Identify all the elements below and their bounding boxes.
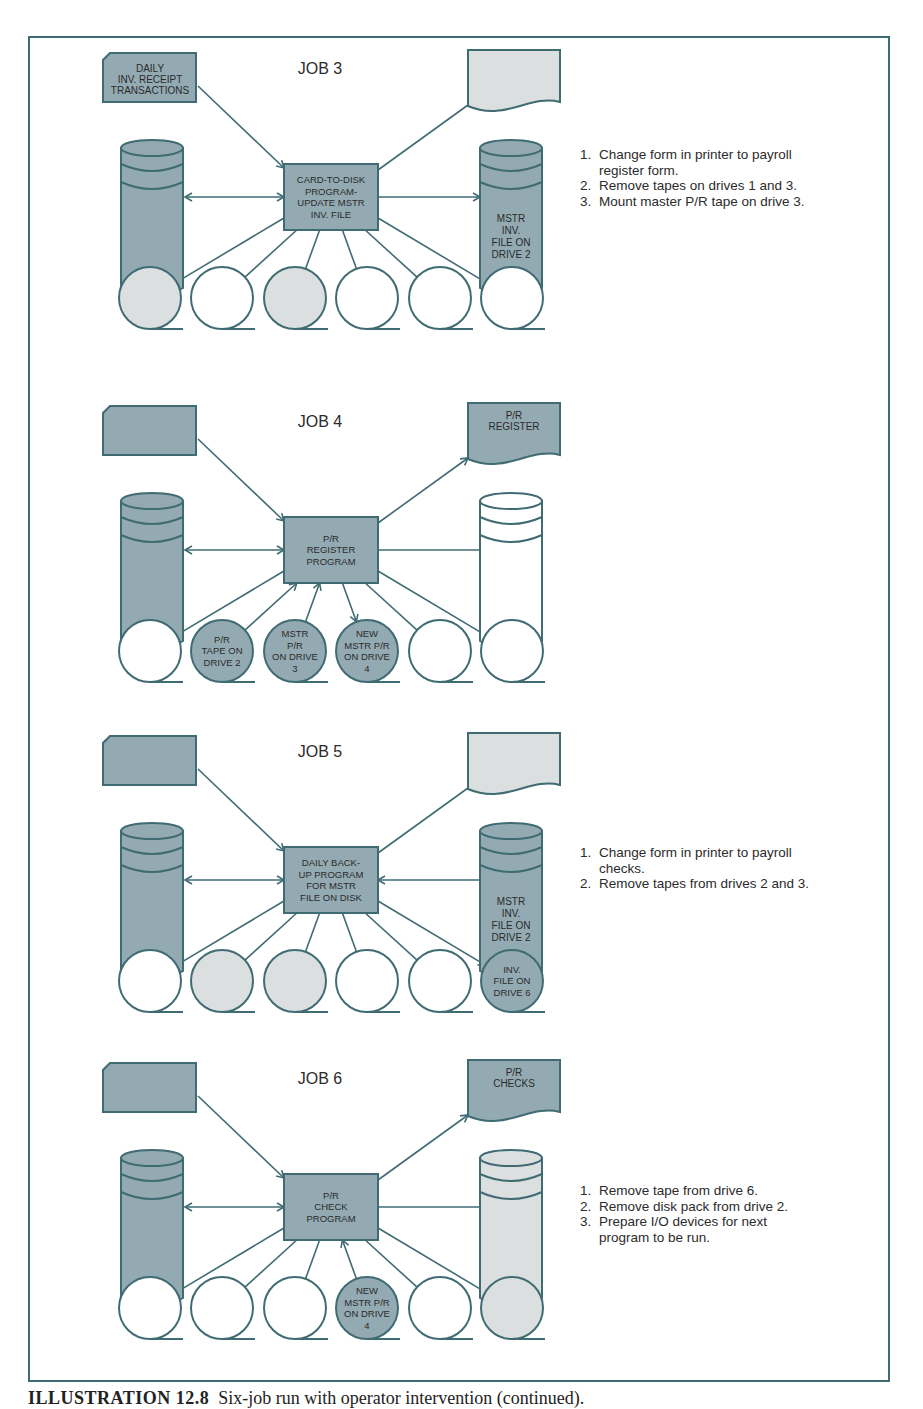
tape-drive-icon-2 <box>191 950 255 1012</box>
shape-label: FILE ON <box>492 237 531 248</box>
job-title: JOB 3 <box>298 60 343 77</box>
card-input-arrow <box>198 769 284 851</box>
shape-label: INV. RECEIPT <box>118 74 183 85</box>
tape-drive-icon-5 <box>409 1277 473 1339</box>
shape-label: REGISTER <box>488 421 539 432</box>
shape-label: MSTR <box>282 628 309 639</box>
note-item: 1.Remove tape from drive 6. <box>580 1183 820 1199</box>
job-title: JOB 5 <box>298 743 343 760</box>
shape-label: 4 <box>364 663 369 674</box>
tape-drive-icon-6 <box>481 267 545 329</box>
tape-connector <box>306 1240 320 1279</box>
tape-drive-icon-1 <box>119 267 183 329</box>
card-input-arrow <box>198 1096 284 1178</box>
tape-drive-icon-2: P/RTAPE ONDRIVE 2 <box>191 620 255 682</box>
caption-label: ILLUSTRATION 12.8 <box>28 1388 209 1408</box>
punched-card-input-icon <box>103 1063 196 1112</box>
job-title: JOB 6 <box>298 1070 343 1087</box>
tape-drive-icon-5 <box>409 950 473 1012</box>
shape-label: P/R <box>506 1067 523 1078</box>
note-item: 1.Change form in printer to payroll regi… <box>580 147 810 178</box>
shape-label: 4 <box>364 1320 369 1331</box>
shape-label: FILE ON DISK <box>300 892 362 903</box>
shape-label: P/R <box>323 533 339 544</box>
shape-label: P/R <box>287 640 303 651</box>
note-item: 2.Remove tapes on drives 1 and 3. <box>580 178 810 194</box>
printer-output-arrow <box>378 105 468 170</box>
note-text: Prepare I/O devices for next program to … <box>599 1214 767 1245</box>
tape-drive-icon-6 <box>481 1277 545 1339</box>
shape-label: TAPE ON <box>202 645 243 656</box>
shape-label: DAILY <box>136 63 164 74</box>
tape-connector <box>306 230 320 269</box>
tape-drive-icon-5 <box>409 267 473 329</box>
tape-drive-icon-3 <box>264 950 328 1012</box>
shape-label: MSTR P/R <box>344 640 390 651</box>
tape-drive-icon-3 <box>264 1277 328 1339</box>
shape-label: P/R <box>214 634 230 645</box>
shape-label: ON DRIVE <box>344 1308 390 1319</box>
shape-label: DAILY BACK- <box>302 857 360 868</box>
tape-drive-icon-1 <box>119 620 183 682</box>
tape-drive-icon-2 <box>191 1277 255 1339</box>
shape-label: P/R <box>323 1190 339 1201</box>
card-input-arrow <box>198 439 284 521</box>
printer-document-icon <box>468 733 560 794</box>
shape-label: UPDATE MSTR <box>297 197 365 208</box>
note-item: 3.Mount master P/R tape on drive 3. <box>580 194 810 210</box>
punched-card-input-icon <box>103 406 196 455</box>
shape-label: PROGRAM <box>306 1213 355 1224</box>
shape-label: DRIVE 6 <box>494 987 531 998</box>
punched-card-input-icon <box>103 736 196 785</box>
note-text: Remove disk pack from drive 2. <box>599 1199 788 1214</box>
tape-drive-icon-3: MSTRP/RON DRIVE3 <box>264 620 328 682</box>
note-text: Remove tapes from drives 2 and 3. <box>599 876 809 891</box>
figure-caption: ILLUSTRATION 12.8 Six-job run with opera… <box>28 1388 584 1409</box>
tape-connector <box>342 230 356 269</box>
printer-output-arrow <box>378 788 468 853</box>
job-3-diagram: JOB 3DAILYINV. RECEIPTTRANSACTIONSMSTRIN… <box>103 50 560 329</box>
shape-label: P/R <box>506 410 523 421</box>
shape-label: UP PROGRAM <box>299 869 364 880</box>
shape-label: FILE ON <box>494 975 531 986</box>
printer-output-arrow <box>378 1115 468 1180</box>
note-item: 1.Change form in printer to payroll chec… <box>580 845 810 876</box>
job-title: JOB 4 <box>298 413 343 430</box>
tape-connector <box>342 1240 356 1279</box>
job-6-diagram: JOB 6P/RCHECKSP/RCHECKPROGRAMNEWMSTR P/R… <box>103 1060 560 1339</box>
shape-label: TRANSACTIONS <box>111 85 190 96</box>
note-item: 3.Prepare I/O devices for next program t… <box>580 1214 820 1245</box>
tape-drive-icon-1 <box>119 1277 183 1339</box>
job-5-operator-notes: 1.Change form in printer to payroll chec… <box>580 845 810 892</box>
shape-label: INV. <box>502 908 521 919</box>
tape-drive-icon-4: NEWMSTR P/RON DRIVE4 <box>336 1277 400 1339</box>
shape-label: PROGRAM <box>306 556 355 567</box>
shape-label: INV. <box>502 225 521 236</box>
shape-label: NEW <box>356 628 378 639</box>
job-5-diagram: JOB 5MSTRINV.FILE ONDRIVE 2DAILY BACK-UP… <box>103 733 560 1012</box>
tape-connector <box>306 913 320 952</box>
shape-label: PROGRAM- <box>305 186 357 197</box>
job-3-operator-notes: 1.Change form in printer to payroll regi… <box>580 147 810 209</box>
note-text: Remove tape from drive 6. <box>599 1183 758 1198</box>
tape-drive-icon-4 <box>336 950 400 1012</box>
shape-label: MSTR <box>497 213 525 224</box>
shape-label: FOR MSTR <box>306 880 356 891</box>
job-6-operator-notes: 1.Remove tape from drive 6. 2.Remove dis… <box>580 1183 820 1245</box>
tape-drive-icon-2 <box>191 267 255 329</box>
shape-label: ON DRIVE <box>272 651 318 662</box>
shape-label: NEW <box>356 1285 378 1296</box>
tape-drive-icon-6 <box>481 620 545 682</box>
shape-label: DRIVE 2 <box>492 932 531 943</box>
shape-label: REGISTER <box>307 544 356 555</box>
tape-connector <box>342 583 356 622</box>
note-text: Remove tapes on drives 1 and 3. <box>599 178 797 193</box>
shape-label: CARD-TO-DISK <box>297 174 366 185</box>
shape-label: FILE ON <box>492 920 531 931</box>
shape-label: 3 <box>292 663 297 674</box>
note-text: Change form in printer to payroll regist… <box>599 147 792 178</box>
shape-label: DRIVE 2 <box>492 249 531 260</box>
shape-label: MSTR P/R <box>344 1297 390 1308</box>
shape-label: CHECKS <box>493 1078 535 1089</box>
shape-label: INV. FILE <box>311 209 351 220</box>
